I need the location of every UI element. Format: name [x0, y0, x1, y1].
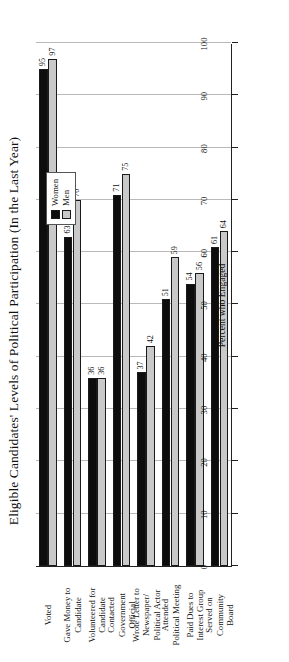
bar-value-label: 95: [39, 58, 47, 66]
x-axis-tick: [232, 304, 238, 305]
bar-value-label: 97: [49, 48, 57, 56]
bar-men: [48, 59, 57, 566]
x-axis-tick: [232, 565, 238, 566]
x-axis-tick: [232, 408, 238, 409]
x-axis-tick-label: 40: [199, 343, 209, 373]
category-label-line: Paid Dues to: [185, 570, 196, 660]
category-label-line: Volunteered for: [87, 570, 98, 660]
rotated-figure-wrapper: Eligible Candidates' Levels of Political…: [0, 0, 289, 662]
category-label: Paid Dues toInterest Group: [185, 570, 206, 660]
bar-men: [171, 257, 180, 566]
x-axis-tick: [232, 147, 238, 148]
category-label-line: Community: [215, 570, 226, 660]
category-label-line: Newspaper/: [141, 570, 152, 660]
bar-value-label: 36: [88, 367, 96, 375]
category-label: Gave Money toCandidate: [62, 570, 83, 660]
bar-value-label: 71: [113, 183, 121, 191]
category-label-line: Served on: [204, 570, 215, 660]
x-axis-tick-label: 70: [199, 186, 209, 216]
bar-value-label: 37: [137, 361, 145, 369]
bar-value-label: 36: [98, 367, 106, 375]
x-axis-tick: [232, 251, 238, 252]
category-label-line: Attended: [160, 570, 171, 660]
bar-value-label: 54: [186, 272, 194, 280]
x-axis-tick-label: 10: [199, 500, 209, 530]
category-label-line: Voted: [43, 570, 54, 660]
bar-men: [122, 174, 131, 566]
category-label: AttendedPolitical Meeting: [160, 570, 181, 660]
x-axis-tick: [232, 513, 238, 514]
category-label-line: Candidate: [73, 570, 84, 660]
bar-men: [73, 200, 82, 566]
bar-value-label: 59: [171, 246, 179, 254]
bar-men: [146, 346, 155, 566]
chart-legend: Women Men: [46, 172, 76, 225]
x-axis-tick-label: 80: [199, 134, 209, 164]
chart-figure: Eligible Candidates' Levels of Political…: [0, 0, 289, 662]
bar-women: [88, 378, 97, 566]
bar-group: 6370: [61, 44, 86, 566]
category-label: Served onCommunityBoard: [204, 570, 236, 660]
x-axis-tick-label: 60: [199, 238, 209, 268]
category-label-line: Wrote Letter to: [131, 570, 142, 660]
bar-value-label: 51: [162, 288, 170, 296]
x-axis-tick: [232, 42, 238, 43]
bar-value-label: 42: [147, 335, 155, 343]
x-axis-tick: [232, 199, 238, 200]
legend-label-women: Women: [50, 179, 61, 206]
category-label-line: Political Meeting: [171, 570, 182, 660]
x-axis-tick-label: 50: [199, 291, 209, 321]
bar-women: [186, 284, 195, 566]
bar-value-label: 63: [64, 225, 72, 233]
category-label: Voted: [43, 570, 54, 660]
x-axis-tick: [232, 94, 238, 95]
bar-women: [64, 237, 73, 566]
x-axis-tick-label: 30: [199, 395, 209, 425]
x-axis-title: Percent who Engaged: [216, 44, 227, 567]
bar-group: 5159: [159, 44, 184, 566]
bar-group: 3742: [134, 44, 159, 566]
category-label: Wrote Letter toNewspaper/Political Actor: [131, 570, 163, 660]
x-axis-tick-label: 20: [199, 447, 209, 477]
bar-group: 3636: [85, 44, 110, 566]
legend-label-men: Men: [61, 190, 72, 206]
category-label-line: Board: [225, 570, 236, 660]
bar-women: [113, 195, 122, 566]
category-label-line: Contacted: [106, 570, 117, 660]
legend-entry-women: Women: [50, 179, 61, 219]
x-axis-tick-label: 90: [199, 81, 209, 111]
bar-women: [137, 373, 146, 567]
x-axis-tick: [232, 460, 238, 461]
bar-men: [97, 378, 106, 566]
category-label-line: Government: [117, 570, 128, 660]
women-swatch-icon: [51, 210, 60, 219]
bar-women: [39, 69, 48, 566]
chart-title: Eligible Candidates' Levels of Political…: [6, 0, 22, 662]
bar-group: 9597: [36, 44, 61, 566]
bar-value-label: 75: [122, 163, 130, 171]
bar-group: 7175: [110, 44, 135, 566]
category-label: Volunteered forCandidate: [87, 570, 108, 660]
men-swatch-icon: [62, 210, 71, 219]
legend-entry-men: Men: [61, 179, 72, 219]
bar-women: [162, 299, 171, 566]
x-axis-tick: [232, 356, 238, 357]
x-axis-tick-label: 100: [199, 29, 209, 59]
category-label-line: Gave Money to: [62, 570, 73, 660]
